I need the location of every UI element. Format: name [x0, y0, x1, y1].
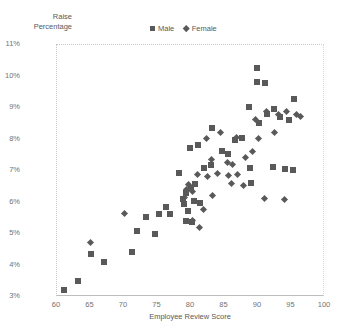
x-tick-label: 95 — [276, 300, 306, 309]
data-point-female — [229, 161, 236, 168]
data-point-female — [217, 129, 224, 136]
data-point-male — [101, 259, 107, 265]
data-point-male — [185, 208, 191, 214]
data-point-male — [75, 278, 81, 284]
scatter-chart: Raise Percentage Male Female 3%4%5%6%7%8… — [0, 0, 348, 335]
legend-label-male: Male — [158, 24, 174, 33]
data-point-female — [242, 154, 249, 161]
data-point-female — [283, 108, 290, 115]
square-marker-icon — [150, 26, 155, 31]
data-point-male — [201, 165, 207, 171]
x-tick-label: 90 — [242, 300, 272, 309]
data-point-male — [143, 214, 149, 220]
data-point-male — [88, 251, 94, 257]
data-points-layer — [57, 45, 323, 295]
data-point-female — [200, 206, 207, 213]
data-point-female — [189, 188, 196, 195]
data-point-male — [195, 142, 201, 148]
data-point-female — [209, 192, 216, 199]
data-point-male — [239, 135, 245, 141]
data-point-female — [87, 239, 94, 246]
data-point-male — [271, 106, 277, 112]
data-point-male — [181, 201, 187, 207]
data-point-male — [176, 170, 182, 176]
data-point-female — [204, 173, 211, 180]
data-point-male — [129, 249, 135, 255]
x-axis-title: Employee Review Score — [56, 312, 324, 321]
data-point-female — [297, 113, 304, 120]
x-tick-label: 70 — [108, 300, 138, 309]
data-point-female — [195, 224, 202, 231]
x-tick-label: 60 — [41, 300, 71, 309]
plot-area — [56, 44, 324, 296]
data-point-female — [225, 172, 232, 179]
data-point-male — [254, 79, 260, 85]
data-point-female — [261, 195, 268, 202]
data-point-male — [247, 165, 253, 171]
y-tick-label: 3% — [0, 292, 20, 300]
y-tick-label: 5% — [0, 229, 20, 237]
y-tick-label: 8% — [0, 135, 20, 143]
x-tick-label: 85 — [209, 300, 239, 309]
y-tick-label: 9% — [0, 103, 20, 111]
data-point-male — [152, 231, 158, 237]
legend-label-female: Female — [192, 24, 217, 33]
data-point-male — [134, 228, 140, 234]
data-point-male — [286, 117, 292, 123]
legend-item-male: Male — [150, 24, 174, 33]
data-point-female — [249, 148, 256, 155]
data-point-male — [248, 180, 254, 186]
data-point-female — [281, 196, 288, 203]
data-point-female — [228, 180, 235, 187]
data-point-male — [225, 151, 231, 157]
data-point-female — [234, 171, 241, 178]
x-tick-label: 75 — [142, 300, 172, 309]
y-tick-label: 4% — [0, 261, 20, 269]
data-point-male — [187, 145, 193, 151]
data-point-male — [254, 65, 260, 71]
legend-item-female: Female — [184, 24, 217, 33]
x-tick-label: 100 — [309, 300, 339, 309]
data-point-female — [254, 135, 261, 142]
x-tick-label: 65 — [75, 300, 105, 309]
data-point-male — [156, 211, 162, 217]
data-point-male — [246, 104, 252, 110]
data-point-female — [194, 171, 201, 178]
y-tick-label: 7% — [0, 166, 20, 174]
chart-legend: Male Female — [150, 24, 217, 33]
data-point-female — [240, 182, 247, 189]
data-point-male — [209, 125, 215, 131]
diamond-marker-icon — [183, 25, 189, 31]
data-point-male — [163, 204, 169, 210]
data-point-female — [203, 135, 210, 142]
y-axis-title: Raise Percentage — [2, 12, 72, 31]
data-point-male — [192, 181, 198, 187]
data-point-male — [270, 164, 276, 170]
data-point-male — [291, 96, 297, 102]
data-point-male — [262, 80, 268, 86]
data-point-female — [214, 170, 221, 177]
data-point-male — [167, 211, 173, 217]
data-point-female — [271, 129, 278, 136]
x-tick-label: 80 — [175, 300, 205, 309]
data-point-male — [197, 200, 203, 206]
data-point-male — [290, 167, 296, 173]
data-point-male — [282, 166, 288, 172]
y-tick-label: 11% — [0, 40, 20, 48]
y-tick-label: 6% — [0, 198, 20, 206]
data-point-male — [61, 287, 67, 293]
data-point-female — [120, 210, 127, 217]
y-tick-label: 10% — [0, 72, 20, 80]
